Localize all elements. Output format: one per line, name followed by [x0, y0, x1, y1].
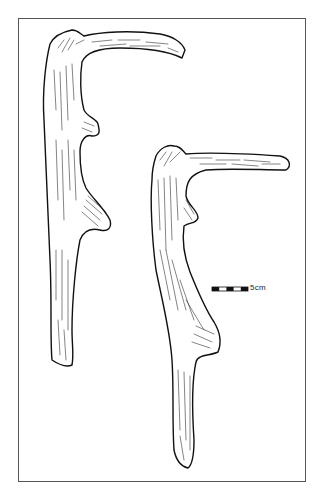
antler-drawing [0, 0, 324, 497]
scale-bar [212, 287, 248, 291]
scale-bar-label: 5cm [250, 283, 266, 292]
right-antler-outline [151, 145, 289, 468]
